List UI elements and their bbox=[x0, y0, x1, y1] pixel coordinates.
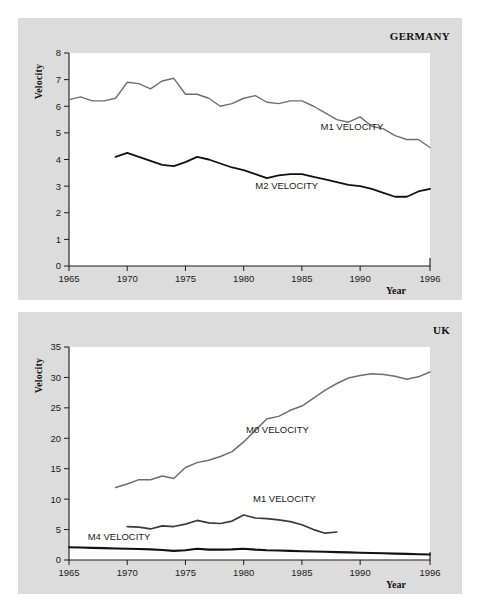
x-axis-label-germany: Year bbox=[386, 285, 406, 296]
x-tick-label: 1965 bbox=[58, 273, 79, 284]
y-axis-label-germany: Velocity bbox=[33, 42, 44, 122]
x-tick-label: 1980 bbox=[233, 273, 254, 284]
x-tick-label: 1970 bbox=[117, 273, 138, 284]
series-annotation: M1 VELOCITY bbox=[253, 493, 316, 504]
series-annotation: M4 VELOCITY bbox=[88, 531, 151, 542]
series-annotation: M2 VELOCITY bbox=[255, 180, 318, 191]
plot-area bbox=[69, 347, 430, 560]
y-tick-label: 5 bbox=[56, 127, 61, 138]
x-tick-label: 1990 bbox=[350, 567, 371, 578]
plot-uk: 0510152025303519651970197519801985199019… bbox=[50, 341, 440, 578]
x-tick-label: 1996 bbox=[419, 567, 440, 578]
y-tick-label: 3 bbox=[56, 181, 61, 192]
y-tick-label: 4 bbox=[56, 154, 61, 165]
y-tick-label: 8 bbox=[56, 47, 61, 58]
y-tick-label: 30 bbox=[50, 372, 61, 383]
x-tick-label: 1975 bbox=[175, 273, 196, 284]
chart-title-germany: GERMANY bbox=[350, 30, 450, 42]
x-axis-label-uk: Year bbox=[386, 579, 406, 590]
y-tick-label: 25 bbox=[50, 402, 61, 413]
figure-root: 0123456781965197019751980198519901996M1 … bbox=[0, 0, 480, 608]
y-tick-label: 0 bbox=[56, 554, 61, 565]
x-tick-label: 1985 bbox=[291, 567, 312, 578]
chart-germany: 0123456781965197019751980198519901996M1 … bbox=[0, 0, 480, 608]
x-tick-label: 1996 bbox=[419, 273, 440, 284]
x-tick-label: 1975 bbox=[175, 567, 196, 578]
y-tick-label: 35 bbox=[50, 341, 61, 352]
y-tick-label: 7 bbox=[56, 74, 61, 85]
x-tick-label: 1970 bbox=[117, 567, 138, 578]
plot-germany: 0123456781965197019751980198519901996M1 … bbox=[56, 47, 441, 284]
plot-area bbox=[69, 53, 430, 266]
x-tick-label: 1965 bbox=[58, 567, 79, 578]
y-tick-label: 20 bbox=[50, 433, 61, 444]
series-annotation: M0 VELOCITY bbox=[246, 424, 309, 435]
chart-title-uk: UK bbox=[350, 324, 450, 336]
y-tick-label: 0 bbox=[56, 260, 61, 271]
y-tick-label: 15 bbox=[50, 463, 61, 474]
y-tick-label: 10 bbox=[50, 494, 61, 505]
y-tick-label: 2 bbox=[56, 207, 61, 218]
x-tick-label: 1980 bbox=[233, 567, 254, 578]
x-tick-label: 1985 bbox=[291, 273, 312, 284]
y-tick-label: 6 bbox=[56, 101, 61, 112]
y-tick-label: 5 bbox=[56, 524, 61, 535]
x-tick-label: 1990 bbox=[350, 273, 371, 284]
series-annotation: M1 VELOCITY bbox=[321, 121, 384, 132]
y-axis-label-uk: Velocity bbox=[33, 336, 44, 416]
y-tick-label: 1 bbox=[56, 234, 61, 245]
